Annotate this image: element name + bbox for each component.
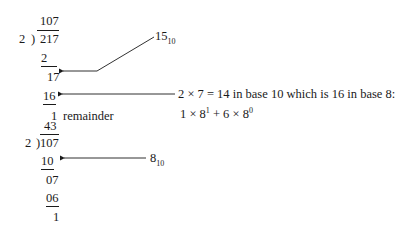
expansion-part2: + 6 × 8 — [210, 107, 249, 121]
annotation-explanation-line2: 1 × 81 + 6 × 80 — [180, 108, 253, 121]
annotation-fifteen-value: 15 — [155, 29, 168, 43]
annotation-fifteen-base10: 1510 — [155, 30, 176, 43]
annotation-explanation-line1: 2 × 7 = 14 in base 10 which is 16 in bas… — [178, 88, 395, 101]
annotation-eight-base10: 810 — [150, 152, 164, 165]
annotation-eight-subscript: 10 — [156, 159, 164, 168]
annotation-fifteen-subscript: 10 — [168, 37, 176, 46]
expansion-exp2: 0 — [249, 106, 253, 115]
expansion-part1: 1 × 8 — [180, 107, 206, 121]
arrow-15-to-17 — [63, 37, 154, 71]
